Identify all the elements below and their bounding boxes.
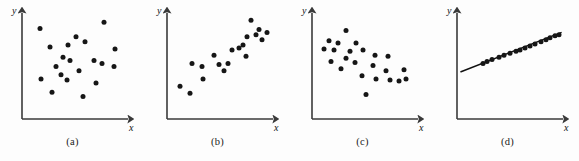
data-points-d [481, 32, 562, 66]
data-point [528, 43, 533, 48]
data-point [329, 59, 334, 64]
data-point [364, 92, 369, 97]
data-point [339, 66, 344, 71]
data-point [490, 57, 495, 62]
data-point [257, 27, 262, 32]
data-point [327, 38, 332, 43]
data-point [388, 77, 393, 82]
data-point [332, 48, 337, 53]
data-point [353, 60, 358, 65]
data-point [102, 20, 107, 25]
data-point [386, 54, 391, 59]
data-points-c [322, 28, 409, 97]
data-point [322, 47, 327, 52]
data-point [497, 55, 502, 60]
panel-caption-a: (a) [0, 136, 145, 147]
data-point [212, 53, 217, 58]
data-point [402, 67, 407, 72]
data-point [502, 53, 507, 58]
data-point [548, 35, 553, 40]
data-point [373, 53, 378, 58]
panel-caption-d: (d) [435, 136, 579, 147]
y-axis-label-d: y [446, 5, 452, 16]
data-point [245, 34, 250, 39]
data-point [354, 40, 359, 45]
data-point [348, 49, 353, 54]
data-point [222, 68, 227, 73]
data-point [523, 46, 528, 51]
data-point [50, 90, 55, 95]
data-point [371, 63, 376, 68]
data-point [77, 68, 82, 73]
y-axis-label-b: y [156, 5, 162, 16]
data-point [81, 94, 86, 99]
data-point [557, 32, 562, 37]
data-point [360, 73, 365, 78]
data-point [237, 46, 242, 51]
scatter-panel-b: yx(b) [145, 0, 290, 161]
data-point [254, 32, 259, 37]
scatterplot-figure: yx(a)yx(b)yx(c)yx(d) [0, 0, 579, 161]
data-point [188, 91, 193, 96]
data-point [112, 64, 117, 69]
x-axis-label-c: x [418, 122, 424, 133]
data-point [200, 64, 205, 69]
data-points-b [178, 18, 270, 96]
data-point [485, 59, 490, 64]
data-point [265, 30, 270, 35]
data-point [190, 61, 195, 66]
y-axis-label-c: y [301, 5, 307, 16]
x-axis-label-d: x [563, 122, 569, 133]
scatter-panel-c: yx(c) [290, 0, 435, 161]
data-point [74, 34, 79, 39]
data-point [92, 58, 97, 63]
data-point [533, 41, 538, 46]
data-point [384, 68, 389, 73]
data-point [59, 72, 64, 77]
data-point [100, 61, 105, 66]
data-point [66, 42, 71, 47]
data-point [361, 48, 366, 53]
data-point [241, 42, 246, 47]
data-point [397, 79, 402, 84]
scatter-panel-d: yx(d) [435, 0, 579, 161]
x-axis-label-b: x [273, 122, 279, 133]
data-point [344, 56, 349, 61]
data-point [94, 81, 99, 86]
x-axis-label-a: x [128, 122, 134, 133]
y-axis-label-a: y [11, 5, 17, 16]
panel-caption-b: (b) [145, 136, 290, 147]
data-point [508, 51, 513, 56]
scatter-panel-a: yx(a) [0, 0, 145, 161]
data-point [374, 76, 379, 81]
data-point [539, 39, 544, 44]
data-point [344, 28, 349, 33]
data-point [336, 40, 341, 45]
data-points-a [38, 20, 118, 99]
data-point [68, 58, 73, 63]
data-point [518, 48, 523, 53]
data-point [226, 61, 231, 66]
data-point [83, 39, 88, 44]
data-point [217, 62, 222, 67]
data-point [230, 48, 235, 53]
panel-caption-c: (c) [290, 136, 435, 147]
data-point [39, 76, 44, 81]
data-point [404, 76, 409, 81]
data-point [178, 84, 183, 89]
data-point [249, 18, 254, 23]
data-point [244, 54, 249, 59]
data-point [48, 45, 53, 50]
data-point [61, 55, 66, 60]
data-point [113, 47, 118, 52]
data-point [54, 64, 59, 69]
data-point [201, 76, 206, 81]
data-point [260, 37, 265, 42]
data-point [38, 26, 43, 31]
data-point [65, 77, 70, 82]
